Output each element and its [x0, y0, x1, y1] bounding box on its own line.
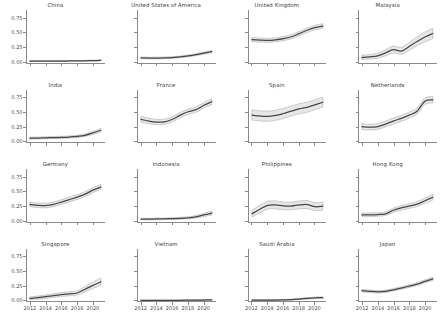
facet-panel-china: China0.000.250.500.75	[0, 0, 111, 80]
y-tick-label: 0.00	[11, 138, 22, 144]
x-tick	[251, 223, 252, 226]
facet-panel-united-states-of-america: United States of America	[111, 0, 222, 80]
y-tick-label: 0.75	[11, 15, 22, 21]
facet-panel-saudi-arabia: Saudi Arabia20122014201620182020	[222, 239, 333, 318]
facet-grid: China0.000.250.500.75United States of Am…	[0, 0, 443, 318]
y-tick-label: 0.00	[11, 218, 22, 224]
series-canvas	[26, 249, 105, 303]
y-tick-label: 0.75	[11, 94, 22, 100]
facet-panel-vietnam: Vietnam20122014201620182020	[111, 239, 222, 318]
x-tick	[188, 223, 189, 226]
facet-panel-japan: Japan20122014201620182020	[332, 239, 443, 318]
plot-area	[358, 10, 437, 64]
series-canvas	[358, 169, 437, 223]
y-tick-label: 0.00	[11, 59, 22, 65]
x-tick	[61, 223, 62, 226]
x-tick-label: 2012	[356, 305, 369, 311]
panel-title: Saudi Arabia	[222, 240, 333, 248]
x-tick	[267, 223, 268, 226]
x-tick	[204, 143, 205, 146]
x-tick	[93, 64, 94, 67]
y-tick-label: 0.25	[11, 124, 22, 130]
x-tick	[61, 143, 62, 146]
panel-title: Philippines	[222, 160, 333, 168]
x-tick	[156, 143, 157, 146]
facet-panel-malaysia: Malaysia	[332, 0, 443, 80]
panel-title: Vietnam	[111, 240, 222, 248]
x-tick	[314, 64, 315, 67]
panel-title: Singapore	[0, 240, 111, 248]
plot-area: 0.000.250.500.75	[26, 90, 105, 144]
series-canvas	[137, 169, 216, 223]
series-canvas	[26, 90, 105, 144]
confidence-band	[362, 96, 433, 129]
x-tick-label: 2014	[39, 305, 52, 311]
x-tick	[30, 223, 31, 226]
facet-panel-france: France	[111, 80, 222, 160]
plot-area: 0.000.250.500.75	[26, 10, 105, 64]
x-tick-label: 2020	[197, 305, 210, 311]
x-tick	[267, 64, 268, 67]
facet-panel-united-kingdom: United Kingdom	[222, 0, 333, 80]
x-tick	[30, 143, 31, 146]
x-tick	[362, 143, 363, 146]
facet-panel-philippines: Philippines	[222, 159, 333, 239]
x-tick	[299, 64, 300, 67]
series-canvas	[358, 10, 437, 64]
plot-area	[358, 90, 437, 144]
x-tick	[283, 64, 284, 67]
mean-line	[30, 60, 101, 61]
x-tick	[362, 64, 363, 67]
plot-area: 0.000.250.500.7520122014201620182020	[26, 249, 105, 303]
x-tick-label: 2016	[166, 305, 179, 311]
x-tick	[141, 223, 142, 226]
x-tick	[46, 143, 47, 146]
x-tick	[314, 223, 315, 226]
confidence-band	[362, 277, 433, 293]
x-tick	[409, 223, 410, 226]
x-tick	[394, 64, 395, 67]
x-tick	[362, 223, 363, 226]
plot-area	[248, 90, 327, 144]
x-tick	[156, 223, 157, 226]
x-tick	[77, 143, 78, 146]
series-canvas	[26, 169, 105, 223]
x-tick	[425, 223, 426, 226]
plot-area: 20122014201620182020	[137, 249, 216, 303]
panel-title: Indonesia	[111, 160, 222, 168]
series-canvas	[137, 10, 216, 64]
x-tick	[299, 143, 300, 146]
y-tick-label: 0.75	[11, 253, 22, 259]
x-tick	[204, 223, 205, 226]
x-tick-label: 2014	[261, 305, 274, 311]
panel-title: China	[0, 1, 111, 9]
facet-panel-indonesia: Indonesia	[111, 159, 222, 239]
confidence-band	[362, 194, 433, 216]
x-tick	[77, 223, 78, 226]
x-tick	[394, 143, 395, 146]
mean-line	[362, 99, 433, 126]
panel-title: Germany	[0, 160, 111, 168]
confidence-band	[251, 200, 322, 217]
x-tick-label: 2014	[150, 305, 163, 311]
plot-area	[248, 10, 327, 64]
x-tick	[314, 143, 315, 146]
x-tick	[46, 64, 47, 67]
y-tick-label: 0.50	[11, 268, 22, 274]
plot-area: 20122014201620182020	[358, 249, 437, 303]
facet-panel-hong-kong: Hong Kong	[332, 159, 443, 239]
x-tick	[188, 143, 189, 146]
x-tick	[251, 64, 252, 67]
x-tick	[141, 143, 142, 146]
plot-area	[358, 169, 437, 223]
series-canvas	[358, 90, 437, 144]
x-tick	[156, 64, 157, 67]
confidence-band	[251, 24, 322, 43]
y-tick-label: 0.50	[11, 29, 22, 35]
plot-area	[248, 169, 327, 223]
confidence-band	[251, 97, 322, 121]
series-canvas	[248, 10, 327, 64]
panel-title: India	[0, 81, 111, 89]
x-tick	[204, 64, 205, 67]
plot-area	[137, 169, 216, 223]
